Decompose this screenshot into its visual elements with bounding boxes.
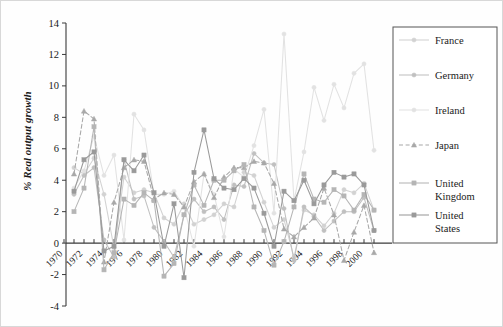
legend-label[interactable]: Japan [435, 140, 460, 151]
data-point-marker-circle [192, 222, 196, 226]
y-axis-tick-label: 8 [54, 112, 59, 123]
x-axis-tick-label: 1972 [64, 248, 85, 269]
data-point-marker-square [182, 213, 186, 217]
legend-label[interactable]: Germany [435, 70, 475, 81]
data-point-marker-circle [192, 244, 196, 248]
data-point-marker-square [292, 199, 296, 203]
data-point-marker-square [272, 263, 276, 267]
data-point-marker-circle [132, 197, 136, 201]
data-point-marker-circle [102, 192, 106, 196]
data-point-marker-circle [272, 225, 276, 229]
x-axis-tick-label: 1988 [224, 248, 245, 269]
y-axis-tick-label: -2 [50, 269, 59, 280]
data-point-marker-square [142, 153, 146, 157]
data-point-marker-square [242, 177, 246, 181]
legend-label[interactable]: Ireland [435, 105, 465, 116]
y-axis-tick-label: -4 [50, 301, 59, 312]
data-point-marker-circle [212, 205, 216, 209]
legend-label[interactable]: France [435, 35, 464, 46]
data-point-marker-square [92, 150, 96, 154]
data-point-marker-square [332, 188, 336, 192]
x-axis-tick-label: 1970 [44, 248, 65, 269]
data-point-marker-square [142, 191, 146, 195]
legend-label-continued[interactable]: Kingdom [435, 191, 475, 202]
data-point-marker-square [262, 228, 266, 232]
data-point-marker-triangle [71, 171, 76, 176]
y-axis-title-group: % Real output growth [21, 91, 33, 190]
data-point-marker-square [282, 239, 286, 243]
data-point-marker-circle [272, 211, 276, 215]
data-point-marker-square [252, 186, 256, 190]
legend-label[interactable]: United [435, 178, 464, 189]
series-germany [72, 151, 376, 262]
y-axis-tick-label: 2 [54, 206, 59, 217]
data-point-marker-circle [192, 197, 196, 201]
series-france [72, 156, 376, 259]
x-axis-tick-label: 1998 [324, 248, 345, 269]
data-point-marker-circle [372, 148, 376, 152]
data-point-marker-square [342, 175, 346, 179]
data-point-marker-circle [252, 173, 256, 177]
data-point-marker-square [262, 211, 266, 215]
chart-legend: FranceGermanyIrelandJapanUnitedKingdomUn… [393, 27, 497, 243]
data-point-marker-square [112, 250, 116, 254]
data-point-marker-circle [242, 184, 246, 188]
data-point-marker-square [252, 205, 256, 209]
data-point-marker-circle [222, 202, 226, 206]
data-point-marker-circle [352, 191, 356, 195]
y-axis-tick-label: 0 [54, 238, 59, 249]
data-point-marker-square [172, 202, 176, 206]
data-point-marker-circle [362, 62, 366, 66]
data-point-marker-square [322, 183, 326, 187]
data-point-marker-triangle [351, 230, 356, 235]
data-point-marker-circle [272, 162, 276, 166]
data-point-marker-square [332, 170, 336, 174]
legend-label-continued[interactable]: States [435, 223, 460, 234]
data-point-marker-circle [292, 258, 296, 262]
data-point-marker-square [212, 177, 216, 181]
x-axis-tick-label: 1974 [84, 248, 105, 269]
data-point-marker-square [222, 178, 226, 182]
data-point-marker-circle [412, 108, 416, 112]
data-point-marker-square [72, 210, 76, 214]
data-point-marker-circle [262, 107, 266, 111]
data-point-marker-square [122, 158, 126, 162]
data-point-marker-square [412, 213, 416, 217]
x-tick-labels: 1970197219741976197819801982198419861988… [44, 248, 365, 269]
data-point-marker-square [302, 178, 306, 182]
data-point-marker-circle [412, 73, 416, 77]
data-point-marker-circle [232, 205, 236, 209]
data-point-marker-circle [112, 153, 116, 157]
data-point-marker-square [282, 189, 286, 193]
x-axis-tick-label: 1986 [204, 248, 225, 269]
data-point-marker-square [202, 128, 206, 132]
y-axis-tick-label: 6 [54, 143, 59, 154]
data-point-marker-square [162, 274, 166, 278]
data-point-marker-square [102, 268, 106, 272]
data-point-marker-circle [172, 222, 176, 226]
data-point-marker-circle [82, 169, 86, 173]
data-point-marker-circle [282, 206, 286, 210]
data-point-marker-circle [322, 224, 326, 228]
data-point-marker-square [362, 183, 366, 187]
data-point-marker-square [242, 162, 246, 166]
data-point-marker-circle [222, 235, 226, 239]
y-axis-tick-label: 14 [49, 18, 60, 29]
data-point-marker-circle [262, 200, 266, 204]
data-point-marker-triangle [371, 250, 376, 255]
data-point-marker-square [352, 172, 356, 176]
data-point-marker-square [232, 188, 236, 192]
data-point-marker-circle [282, 32, 286, 36]
data-point-marker-circle [352, 71, 356, 75]
data-point-marker-triangle [131, 157, 136, 162]
x-axis-tick-label: 1996 [304, 248, 325, 269]
data-point-marker-square [132, 169, 136, 173]
data-point-marker-circle [322, 228, 326, 232]
data-point-marker-square [302, 172, 306, 176]
data-point-marker-circle [212, 213, 216, 217]
legend-label[interactable]: United [435, 210, 464, 221]
data-point-marker-square [352, 208, 356, 212]
data-point-marker-square [112, 244, 116, 248]
data-point-marker-square [312, 202, 316, 206]
data-point-marker-square [202, 203, 206, 207]
